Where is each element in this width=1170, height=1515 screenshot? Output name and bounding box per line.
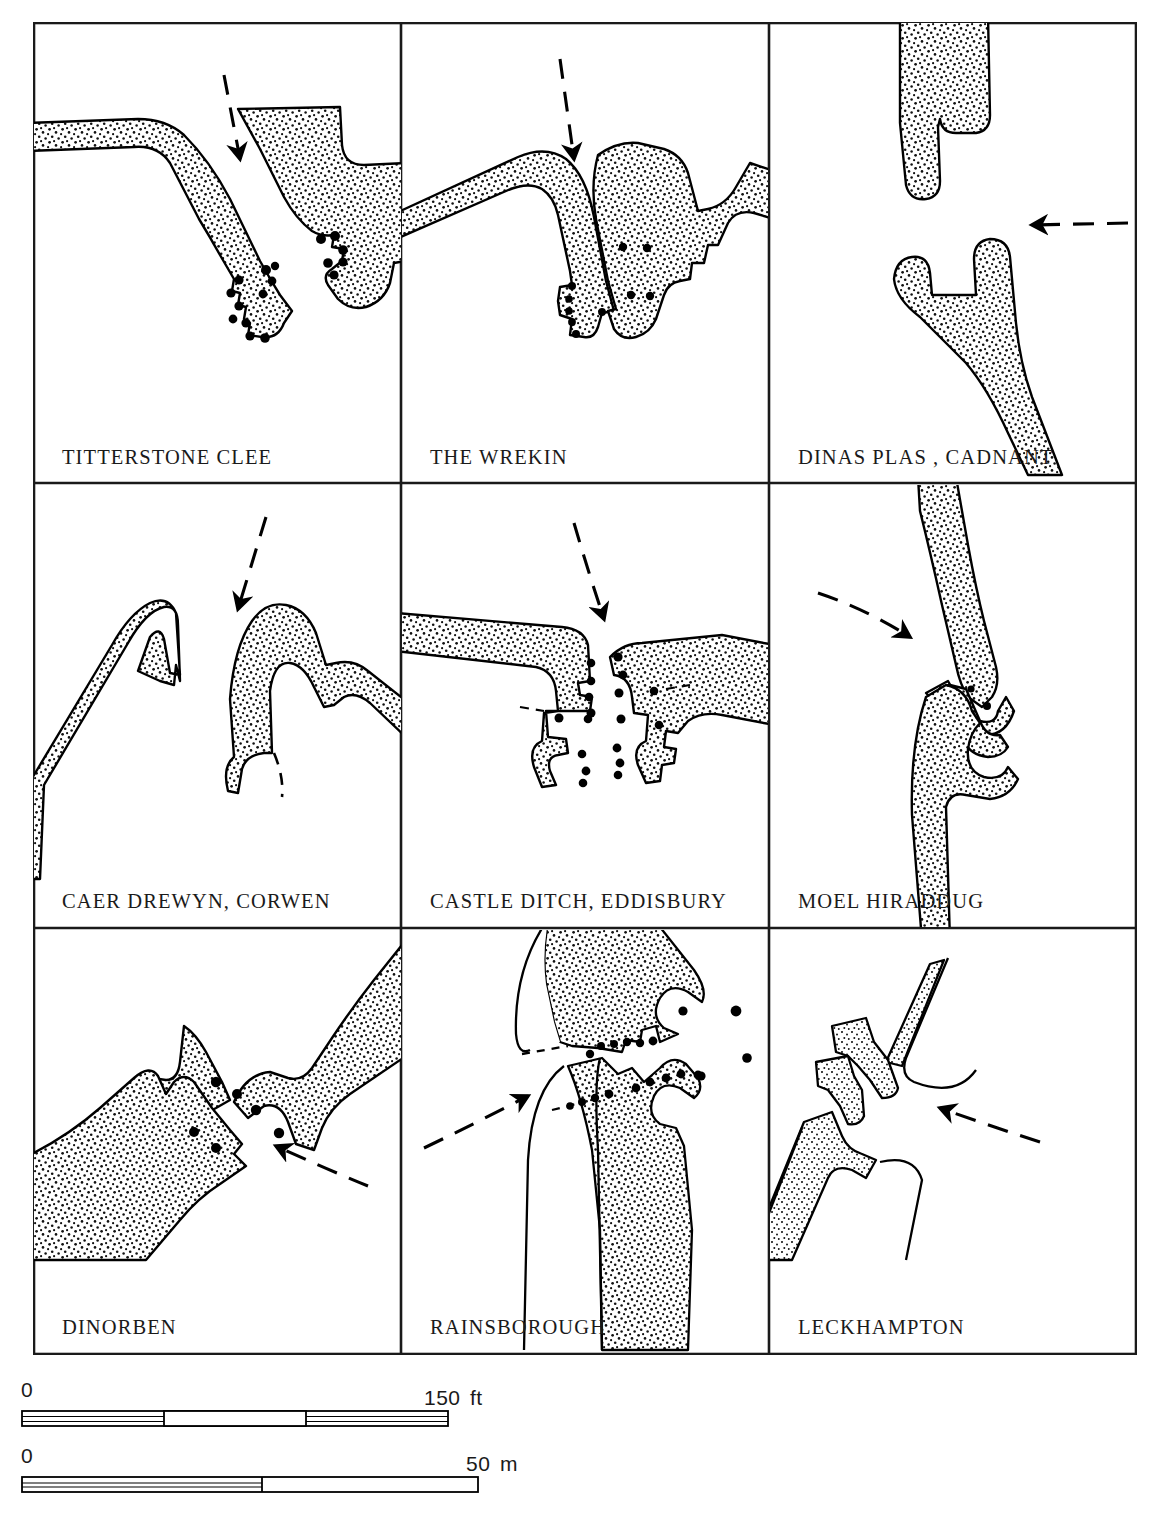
panel-caer-drewyn-corwen: CAER DREWYN, CORWEN [34,485,401,927]
plan-castle-ditch-eddisbury [402,485,768,927]
approach-arrow [574,523,604,619]
figure-hillfort-entrances: TITTERSTONE CLEE THE WREKIN [0,0,1170,1515]
plan-moel-hiraddug [770,485,1136,927]
approach-arrow [1032,223,1128,225]
approach-arrow [940,1108,1040,1142]
conjectural-line [274,753,282,797]
panel-dinas-plas-cadnant: DINAS PLAS , CADNANT [770,23,1136,483]
approach-arrow [560,59,574,159]
scale-bar-feet [22,1411,448,1426]
panel-caption: TITTERSTONE CLEE [34,431,401,483]
plan-caer-drewyn-corwen [34,485,401,927]
panel-castle-ditch-eddisbury: CASTLE DITCH, EDDISBURY [402,485,768,927]
scale-bar-metres [22,1477,478,1492]
panel-moel-hiraddug: MOEL HIRADDUG [770,485,1136,927]
approach-arrow [424,1096,528,1148]
panel-caption: RAINSBOROUGH [402,1301,768,1353]
plan-dinorben [34,930,401,1353]
scale-bar-graphics [0,1378,1170,1515]
panel-the-wrekin: THE WREKIN [402,23,768,483]
panel-rainsborough: RAINSBOROUGH [402,930,768,1353]
plan-rainsborough [402,930,768,1353]
approach-arrow [238,517,266,609]
panel-caption: LECKHAMPTON [770,1301,1136,1353]
panel-caption: MOEL HIRADDUG [770,875,1136,927]
conjectural-line [520,707,544,711]
panel-caption: CASTLE DITCH, EDDISBURY [402,875,768,927]
panel-titterstone-clee: TITTERSTONE CLEE [34,23,401,483]
approach-arrow [276,1146,368,1186]
panel-grid: TITTERSTONE CLEE THE WREKIN [33,22,1137,1355]
panel-dinorben: DINORBEN [34,930,401,1353]
scale-bars: 0 150 ft 0 50 m [0,1378,1170,1515]
panel-caption: DINAS PLAS , CADNANT [770,431,1136,483]
plan-leckhampton [770,930,1136,1353]
panel-caption: DINORBEN [34,1301,401,1353]
approach-arrow [224,75,240,159]
panel-caption: THE WREKIN [402,431,768,483]
panel-leckhampton: LECKHAMPTON [770,930,1136,1353]
plan-titterstone-clee [34,23,401,483]
plan-dinas-plas-cadnant [770,23,1136,483]
panel-caption: CAER DREWYN, CORWEN [34,875,401,927]
approach-arrow [818,593,910,637]
plan-the-wrekin [402,23,768,483]
